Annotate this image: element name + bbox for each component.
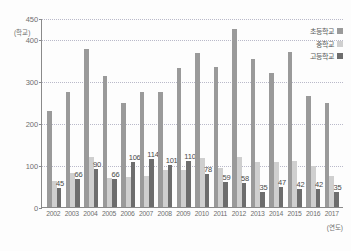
x-axis-tick-label: 2005 [100,210,119,217]
legend-item-high: 고등학교 [310,51,343,61]
bar-chart: (학교) 0100200300400450 456690661061141011… [0,0,351,251]
x-axis-tick-label: 2009 [174,210,193,217]
bar-high: 78 [205,174,210,207]
legend-swatch-elementary [337,28,343,34]
bar-high: 35 [260,192,265,207]
y-axis-tick-mark [39,208,42,209]
plot-area: 0100200300400450 45669066106114101110785… [41,19,343,208]
bar-group: 106 [119,19,138,207]
x-axis-tick-label: 2002 [44,210,63,217]
bar-group: 47 [267,19,286,207]
bar-group: 59 [212,19,231,207]
bar-high: 66 [75,179,80,207]
bar-high: 114 [149,159,154,207]
legend-item-elementary: 초등학교 [310,26,343,36]
x-axis-tick-label: 2012 [230,210,249,217]
bar-group: 35 [249,19,268,207]
legend-swatch-high [337,53,343,59]
chart-legend: 초등학교 중학교 고등학교 [310,26,343,61]
bar-group: 42 [286,19,305,207]
x-axis-unit-label: (연도) [327,222,343,232]
bar-high: 35 [334,192,339,207]
bar-high: 58 [242,183,247,207]
bar-high: 106 [131,162,136,207]
bar-value-label: 35 [334,183,342,192]
bar-high: 42 [297,189,302,207]
x-axis-tick-label: 2003 [63,210,82,217]
bar-groups: 456690661061141011107859583547424235 [42,19,343,207]
bar-group: 66 [101,19,120,207]
x-axis-tick-label: 2011 [211,210,230,217]
x-axis-labels: 2002200320042005200620072008200920102011… [41,210,343,217]
legend-swatch-middle [337,41,343,47]
x-axis-tick-label: 2006 [118,210,137,217]
bar-high: 59 [223,182,228,207]
bar-high: 66 [112,179,117,207]
x-axis-tick-label: 2013 [248,210,267,217]
bar-group: 45 [45,19,64,207]
x-axis-tick-label: 2014 [267,210,286,217]
bar-high: 110 [186,161,191,207]
x-axis-tick-label: 2004 [81,210,100,217]
bar-group: 78 [193,19,212,207]
legend-item-middle: 중학교 [316,39,343,49]
bar-group: 110 [175,19,194,207]
x-axis-tick-label: 2007 [137,210,156,217]
bar-high: 47 [279,187,284,207]
bar-high: 90 [94,169,99,207]
x-axis-tick-label: 2016 [304,210,323,217]
bar-group: 101 [156,19,175,207]
bar-group: 66 [64,19,83,207]
x-axis-tick-label: 2017 [322,210,341,217]
bar-high: 42 [316,189,321,207]
legend-label-high: 고등학교 [310,51,334,61]
x-axis-tick-label: 2008 [155,210,174,217]
bar-high: 101 [168,165,173,207]
x-axis-tick-label: 2015 [285,210,304,217]
bar-group: 90 [82,19,101,207]
bar-group: 114 [138,19,157,207]
bar-group: 58 [230,19,249,207]
x-axis-tick-label: 2010 [193,210,212,217]
bar-high: 45 [57,188,62,207]
legend-label-middle: 중학교 [316,39,334,49]
legend-label-elementary: 초등학교 [310,26,334,36]
